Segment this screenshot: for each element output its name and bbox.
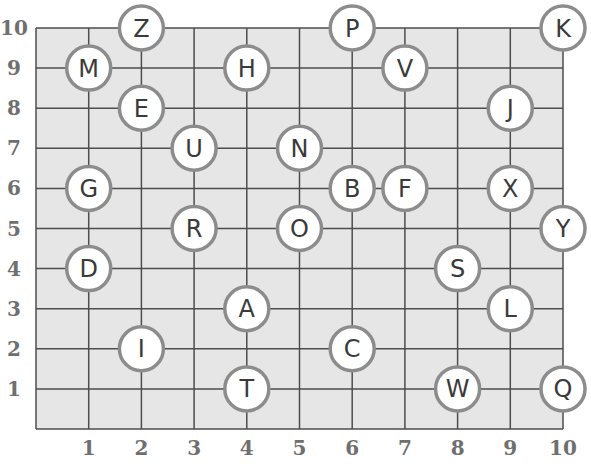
point-letter: N: [291, 135, 309, 163]
point-letter: J: [505, 95, 514, 123]
x-axis-tick-label: 8: [451, 436, 465, 460]
point-h: H: [225, 46, 269, 90]
point-letter: P: [345, 15, 359, 43]
point-letter: E: [134, 95, 149, 123]
point-q: Q: [541, 367, 585, 411]
point-g: G: [67, 166, 111, 210]
y-axis-labels: 12345678910: [0, 16, 28, 401]
point-letter: A: [239, 295, 256, 323]
point-letter: H: [238, 55, 256, 83]
point-e: E: [119, 86, 163, 130]
y-axis-tick-label: 8: [7, 96, 21, 120]
point-letter: B: [344, 175, 360, 203]
x-axis-tick-label: 5: [293, 436, 307, 460]
point-letter: M: [78, 55, 99, 83]
point-letter: S: [450, 255, 465, 283]
y-axis-tick-label: 3: [7, 297, 21, 321]
point-b: B: [330, 166, 374, 210]
point-w: W: [436, 367, 480, 411]
point-j: J: [488, 86, 532, 130]
point-letter: D: [79, 255, 97, 283]
point-letter: T: [238, 375, 254, 403]
y-axis-tick-label: 10: [0, 16, 28, 40]
y-axis-tick-label: 6: [7, 176, 21, 200]
point-letter: L: [504, 295, 518, 323]
point-m: M: [67, 46, 111, 90]
y-axis-tick-label: 2: [7, 337, 21, 361]
x-axis-tick-label: 10: [549, 436, 577, 460]
point-z: Z: [119, 6, 163, 50]
point-a: A: [225, 287, 269, 331]
point-k: K: [541, 6, 585, 50]
x-axis-tick-label: 7: [398, 436, 412, 460]
x-axis-tick-label: 2: [134, 436, 148, 460]
point-letter: Q: [554, 375, 573, 403]
x-axis-tick-label: 1: [82, 436, 96, 460]
x-axis-tick-label: 6: [345, 436, 359, 460]
x-axis-tick-label: 3: [187, 436, 201, 460]
point-x: X: [488, 166, 532, 210]
point-c: C: [330, 327, 374, 371]
point-y: Y: [541, 207, 585, 251]
point-letter: C: [344, 335, 361, 363]
point-t: T: [225, 367, 269, 411]
y-axis-tick-label: 4: [7, 257, 21, 281]
point-u: U: [172, 126, 216, 170]
y-axis-tick-label: 9: [7, 56, 21, 80]
point-f: F: [383, 166, 427, 210]
point-letter: G: [79, 175, 98, 203]
y-axis-tick-label: 5: [7, 217, 21, 241]
point-letter: Y: [555, 215, 571, 243]
point-s: S: [436, 247, 480, 291]
point-n: N: [278, 126, 322, 170]
coordinate-grid: 12345678910 12345678910 ZPKMHVEJUNGBFXRO…: [0, 0, 591, 464]
point-l: L: [488, 287, 532, 331]
point-v: V: [383, 46, 427, 90]
point-letter: X: [502, 175, 518, 203]
x-axis-tick-label: 4: [240, 436, 254, 460]
point-o: O: [278, 207, 322, 251]
point-letter: I: [138, 335, 145, 363]
point-letter: O: [290, 215, 309, 243]
point-letter: Z: [133, 15, 149, 43]
y-axis-tick-label: 1: [7, 377, 21, 401]
point-letter: K: [555, 15, 572, 43]
point-letter: W: [446, 375, 470, 403]
point-letter: V: [397, 55, 414, 83]
point-p: P: [330, 6, 374, 50]
x-axis-tick-label: 9: [503, 436, 517, 460]
point-r: R: [172, 207, 216, 251]
y-axis-tick-label: 7: [7, 136, 21, 160]
point-i: I: [119, 327, 163, 371]
point-letter: U: [185, 135, 203, 163]
point-letter: R: [186, 215, 203, 243]
point-letter: F: [398, 175, 412, 203]
x-axis-labels: 12345678910: [82, 436, 577, 460]
point-d: D: [67, 247, 111, 291]
